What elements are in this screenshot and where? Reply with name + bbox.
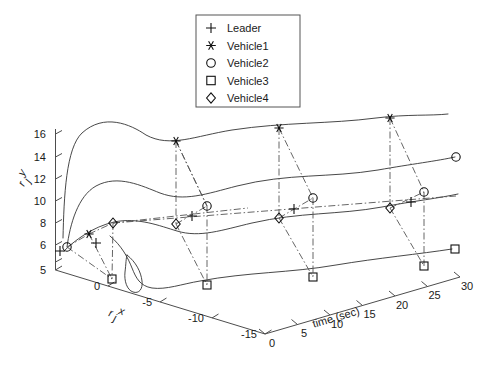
marker-leader (55, 197, 416, 256)
time-tick-label: 30 (461, 280, 473, 292)
y-tick-label: 14 (34, 151, 46, 163)
time-tick-label: 15 (363, 308, 375, 320)
legend-label-vehicle4: Vehicle4 (227, 92, 269, 104)
formation-snapshot-t26 (390, 118, 424, 266)
marker-vehicle1 (84, 114, 394, 238)
x-tick-label: -10 (188, 312, 204, 324)
figure-canvas: 16 14 12 10 8 6 r j y 5 0 -5 -10 -15 r j… (0, 0, 483, 381)
time-tick-label: 0 (269, 337, 275, 349)
marker-vehicle4 (109, 203, 394, 229)
x-tick-label: 5 (40, 264, 46, 276)
x-axis-label: r j x (106, 302, 126, 326)
trajectory-vehicle3 (110, 236, 452, 288)
formation-links (67, 118, 456, 285)
legend-label-vehicle1: Vehicle1 (227, 40, 269, 52)
time-tick-label: 5 (301, 327, 307, 339)
marker-vehicle3 (108, 245, 459, 289)
leader-chain (113, 196, 456, 223)
trajectory-curves (63, 114, 458, 292)
time-axis-ticks (259, 272, 460, 334)
x-tick-label: 0 (94, 280, 100, 292)
y-axis-label: r j y (11, 166, 37, 190)
x-tick-label: -15 (241, 328, 257, 340)
time-tick-label: 20 (396, 299, 408, 311)
formation-snapshot-t14 (279, 128, 313, 277)
time-tick-label: 25 (428, 289, 440, 301)
legend[interactable]: Leader Vehicle1 Vehicle2 Vehicle3 Vehicl… (196, 15, 300, 107)
data-markers (55, 114, 460, 289)
trajectory-leader (125, 255, 142, 292)
y-axis-tick-labels: 16 14 12 10 8 6 (34, 128, 46, 251)
y-axis-ticks (56, 131, 63, 263)
legend-label-vehicle3: Vehicle3 (227, 75, 269, 87)
trajectory-vehicle2 (67, 157, 455, 247)
y-tick-label: 16 (34, 128, 46, 140)
marker-vehicle2 (63, 153, 460, 251)
y-tick-label: 12 (34, 173, 46, 185)
x-axis-ticks (56, 266, 272, 334)
y-tick-label: 10 (34, 195, 46, 207)
y-tick-label: 6 (40, 239, 46, 251)
time-axis-tick-labels: 0 5 10 15 20 25 30 (269, 280, 473, 349)
legend-label-leader: Leader (227, 22, 262, 34)
y-tick-label: 8 (40, 217, 46, 229)
legend-label-vehicle2: Vehicle2 (227, 57, 269, 69)
x-axis-label-sup: x (117, 304, 127, 318)
y-axis-label-sup: y (15, 166, 29, 179)
x-tick-label: -5 (142, 296, 152, 308)
